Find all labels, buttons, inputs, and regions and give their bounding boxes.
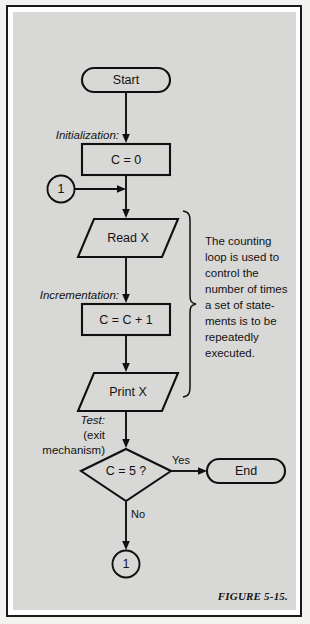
annotation-brace	[183, 211, 196, 397]
brace-path	[183, 211, 196, 397]
arrowhead-read	[122, 209, 130, 218]
annotation-line-5: a set of state-	[205, 299, 275, 311]
arrowhead-initialize	[122, 134, 130, 143]
annotation-line-7: repeatedly	[205, 331, 259, 343]
print-label: Print X	[109, 385, 147, 399]
start-label: Start	[113, 73, 140, 87]
increment-label: C = C + 1	[99, 313, 153, 327]
connector-out-label: 1	[123, 557, 130, 571]
node-read[interactable]: Read X	[78, 219, 178, 257]
label-initialization: Initialization:	[56, 129, 119, 141]
node-connector-in[interactable]: 1	[48, 176, 75, 203]
annotation-line-1: The counting	[205, 235, 272, 247]
annotation-line-2: loop is used to	[205, 251, 279, 263]
flowchart-diagram: Start Initialization: C = 0 1 Read X Inc…	[13, 12, 296, 610]
read-label: Read X	[107, 231, 149, 245]
node-start[interactable]: Start	[82, 68, 170, 92]
node-initialize[interactable]: C = 0	[82, 144, 170, 175]
annotation-line-6: ments is to be	[205, 315, 277, 327]
node-end[interactable]: End	[207, 459, 285, 483]
annotation-text: The counting loop is used to control the…	[205, 235, 288, 359]
annotation-line-8: executed.	[205, 347, 255, 359]
annotation-line-3: control the	[205, 267, 259, 279]
arrowhead-decision	[122, 439, 130, 448]
label-test-sub-1: (exit	[83, 429, 106, 441]
end-label: End	[235, 464, 257, 478]
arrowhead-connector-out	[122, 541, 130, 550]
label-test-sub-2: mechanism)	[42, 444, 105, 456]
label-branch-yes: Yes	[172, 454, 190, 466]
initialize-label: C = 0	[111, 153, 141, 167]
node-print[interactable]: Print X	[78, 373, 178, 411]
label-branch-no: No	[131, 508, 145, 520]
arrowhead-merge	[117, 185, 126, 193]
node-increment[interactable]: C = C + 1	[82, 304, 170, 335]
arrowhead-end	[198, 467, 207, 475]
connector-in-label: 1	[58, 182, 65, 196]
figure-caption: FIGURE 5-15.	[218, 590, 288, 602]
label-incrementation: Incrementation:	[40, 289, 119, 301]
node-connector-out[interactable]: 1	[113, 551, 140, 578]
arrowhead-print	[122, 363, 130, 372]
label-test: Test:	[80, 414, 105, 426]
figure-page: Start Initialization: C = 0 1 Read X Inc…	[0, 0, 310, 624]
arrowhead-increment	[122, 294, 130, 303]
decision-label: C = 5 ?	[106, 464, 147, 478]
node-decision[interactable]: C = 5 ?	[81, 449, 171, 501]
annotation-line-4: number of times	[205, 283, 288, 295]
